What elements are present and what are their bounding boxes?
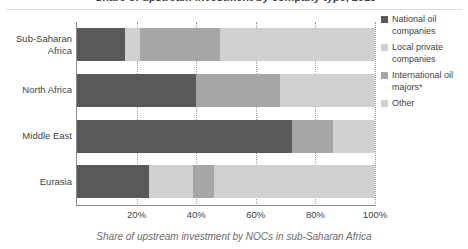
legend-swatch-icon — [381, 100, 388, 107]
x-tick-label: 20% — [117, 209, 157, 220]
gridline-100 — [375, 22, 376, 206]
x-tick-label: 40% — [176, 209, 216, 220]
legend-item[interactable]: National oil companies — [381, 14, 467, 37]
bar-segment — [193, 165, 214, 198]
legend-label: Other — [392, 98, 415, 108]
bar-middle-east — [77, 120, 375, 153]
chart-container: Share of upstream investment by company … — [0, 0, 468, 249]
bar-segment — [149, 165, 194, 198]
chart-legend: National oil companiesLocal private comp… — [381, 14, 467, 115]
category-label: North Africa — [0, 84, 72, 96]
title-divider — [6, 9, 462, 10]
bar-segment — [214, 165, 375, 198]
category-label: Middle East — [0, 130, 72, 142]
chart-title: Share of upstream investment by company … — [95, 0, 376, 3]
x-tick-label: 60% — [236, 209, 276, 220]
bar-segment — [77, 74, 196, 107]
category-label: Eurasia — [0, 176, 72, 188]
bar-segment — [77, 28, 125, 61]
legend-label: National oil companies — [392, 14, 437, 36]
bar-sub-saharan-africa — [77, 28, 375, 61]
bar-north-africa — [77, 74, 375, 107]
legend-swatch-icon — [381, 16, 388, 23]
bar-segment — [220, 28, 375, 61]
legend-label: Local private companies — [392, 42, 443, 64]
plot-area — [77, 22, 375, 205]
x-axis-line — [76, 205, 375, 206]
y-axis-category-labels: Sub-SaharanAfricaNorth AfricaMiddle East… — [0, 22, 72, 205]
bar-segment — [77, 165, 149, 198]
bar-segment — [125, 28, 140, 61]
bar-segment — [280, 74, 375, 107]
x-tick-label: 100% — [355, 209, 395, 220]
chart-caption: Share of upstream investment by NOCs in … — [0, 231, 468, 242]
legend-label: International oil majors* — [392, 70, 453, 92]
legend-item[interactable]: International oil majors* — [381, 70, 467, 93]
x-tick-label: 80% — [295, 209, 335, 220]
bar-eurasia — [77, 165, 375, 198]
bar-segment — [140, 28, 220, 61]
legend-item[interactable]: Local private companies — [381, 42, 467, 65]
bar-segment — [292, 120, 334, 153]
bar-segment — [196, 74, 279, 107]
bar-segment — [77, 120, 292, 153]
legend-swatch-icon — [381, 44, 388, 51]
legend-item[interactable]: Other — [381, 98, 467, 110]
bar-segment — [333, 120, 375, 153]
legend-swatch-icon — [381, 72, 388, 79]
category-label: Sub-SaharanAfrica — [0, 33, 72, 57]
chart-title-strip: Share of upstream investment by company … — [0, 0, 468, 9]
